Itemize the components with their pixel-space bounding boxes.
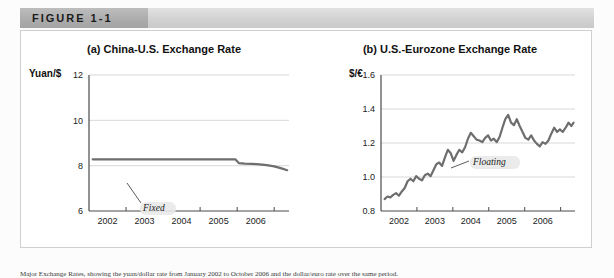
- svg-text:6: 6: [78, 206, 83, 216]
- svg-text:2006: 2006: [246, 216, 266, 226]
- svg-text:Floating: Floating: [472, 157, 506, 167]
- svg-text:0.8: 0.8: [362, 206, 375, 216]
- svg-text:2004: 2004: [172, 216, 192, 226]
- svg-text:2002: 2002: [98, 216, 118, 226]
- svg-text:Fixed: Fixed: [142, 203, 165, 213]
- figure-container: FIGURE 1-1 (a) China-U.S. Exchange Rate …: [0, 0, 614, 278]
- svg-text:2002: 2002: [389, 216, 409, 226]
- svg-text:1.4: 1.4: [362, 104, 375, 114]
- svg-text:2005: 2005: [209, 216, 229, 226]
- svg-text:2004: 2004: [461, 216, 481, 226]
- svg-text:2003: 2003: [135, 216, 155, 226]
- figure-number-tab: FIGURE 1-1: [20, 8, 148, 28]
- svg-text:12: 12: [73, 70, 83, 80]
- figure-caption: Major Exchange Rates, showing the yuan/d…: [20, 270, 594, 278]
- svg-text:1.6: 1.6: [362, 70, 375, 80]
- svg-text:8: 8: [78, 161, 83, 171]
- svg-text:2006: 2006: [533, 216, 553, 226]
- svg-text:2005: 2005: [497, 216, 517, 226]
- chart-panel-b: (b) U.S.-Eurozone Exchange Rate $/€ 0.81…: [307, 31, 593, 231]
- svg-text:10: 10: [73, 116, 83, 126]
- svg-text:2003: 2003: [425, 216, 445, 226]
- figure-number-label: FIGURE 1-1: [32, 12, 113, 24]
- chart-a-plot: 68101220022003200420052006Fixed: [21, 31, 307, 231]
- chart-b-plot: 0.81.01.21.41.620022003200420052006Float…: [307, 31, 593, 231]
- svg-text:1.2: 1.2: [362, 138, 375, 148]
- figure-header-band: FIGURE 1-1: [20, 8, 594, 28]
- chart-panel-a: (a) China-U.S. Exchange Rate Yuan/$ 6810…: [21, 31, 307, 231]
- svg-text:1.0: 1.0: [362, 172, 375, 182]
- figure-caption-strip: Major Exchange Rates, showing the yuan/d…: [20, 258, 594, 278]
- figure-panel: (a) China-U.S. Exchange Rate Yuan/$ 6810…: [20, 30, 592, 248]
